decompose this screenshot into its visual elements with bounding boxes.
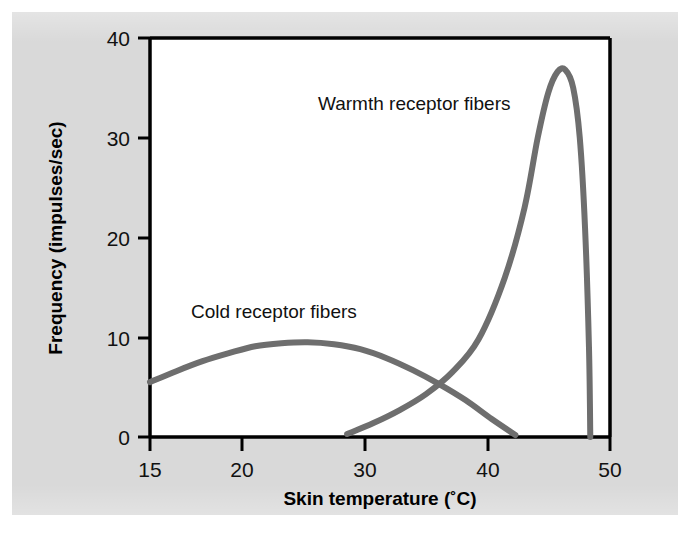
series-label-warmth: Warmth receptor fibers [318,93,511,114]
x-tick-label-15: 15 [138,458,161,481]
x-tick-label-20: 20 [230,458,253,481]
y-tick-label-20: 20 [107,227,130,250]
x-tick-label-30: 30 [353,458,376,481]
figure-container: 40 30 20 10 0 15 20 30 40 50 Skin temper… [0,0,692,540]
y-tick-label-40: 40 [107,27,130,50]
y-tick-label-0: 0 [118,426,130,449]
x-axis-title: Skin temperature (˚C) [283,488,476,509]
chart-svg: 40 30 20 10 0 15 20 30 40 50 Skin temper… [0,0,692,540]
y-tick-label-10: 10 [107,327,130,350]
x-axis-ticks [150,437,610,451]
y-tick-label-30: 30 [107,127,130,150]
x-tick-label-50: 50 [598,458,621,481]
y-axis-title: Frequency (impulses/sec) [45,121,66,354]
y-axis-ticks [138,38,150,437]
series-label-cold: Cold receptor fibers [191,301,357,322]
x-tick-label-40: 40 [476,458,499,481]
